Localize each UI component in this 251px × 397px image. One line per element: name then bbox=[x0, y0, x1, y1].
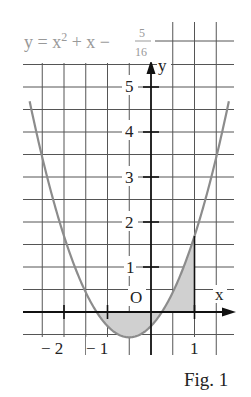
x-tick-label-neg2: − 2 bbox=[41, 339, 63, 358]
x-tick-label-1: 1 bbox=[190, 339, 199, 358]
equation-fraction-numerator: 5 bbox=[139, 26, 145, 40]
y-tick-label-2: 2 bbox=[125, 213, 134, 232]
x-axis-label: x bbox=[215, 285, 224, 304]
parabola-figure: 5 4 3 2 1 O − 2 − 1 1 x y y = x2 + x − 5… bbox=[0, 0, 251, 397]
svg-text:y = x2 + x −: y = x2 + x − bbox=[24, 30, 110, 52]
equation-lhs: y = x bbox=[24, 32, 61, 52]
x-tick-label-neg1: − 1 bbox=[86, 339, 108, 358]
y-tick-label-1: 1 bbox=[126, 258, 135, 277]
y-axis-label: y bbox=[158, 56, 167, 75]
y-tick-label-3: 3 bbox=[125, 168, 134, 187]
origin-label: O bbox=[130, 288, 142, 307]
x-axis-arrow-icon bbox=[222, 308, 236, 317]
figure-caption: Fig. 1 bbox=[184, 369, 228, 390]
y-axis-arrow-icon bbox=[147, 60, 156, 74]
equation-fraction-denominator: 16 bbox=[135, 45, 147, 59]
equation-rhs: + x − bbox=[67, 32, 110, 52]
y-tick-label-4: 4 bbox=[125, 122, 134, 141]
y-tick-label-5: 5 bbox=[125, 77, 134, 96]
